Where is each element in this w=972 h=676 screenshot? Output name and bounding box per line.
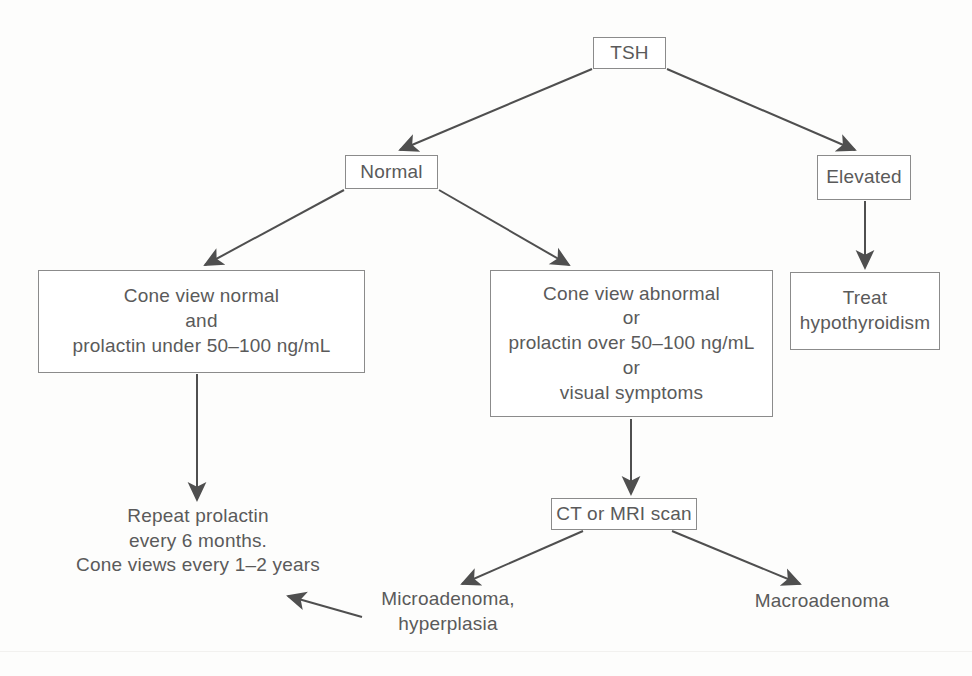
node-microadenoma-line-1: Microadenoma, <box>352 587 544 612</box>
node-cone-view-abnormal-line-3: prolactin over 50–100 ng/mL <box>491 331 772 356</box>
edge-microadenoma-to-repeat <box>288 596 362 617</box>
flowchart-canvas: TSH Normal Elevated Cone view normal and… <box>0 0 972 676</box>
node-tsh: TSH <box>593 37 666 69</box>
node-normal: Normal <box>345 155 438 189</box>
node-ct-or-mri-scan-label: CT or MRI scan <box>556 502 691 527</box>
node-macroadenoma: Macroadenoma <box>724 588 920 614</box>
node-normal-label: Normal <box>360 160 422 185</box>
node-cone-view-abnormal-line-2: or <box>491 306 772 331</box>
node-microadenoma-line-2: hyperplasia <box>352 612 544 637</box>
node-cone-view-normal-line-3: prolactin under 50–100 ng/mL <box>39 334 364 359</box>
node-repeat-prolactin-line-1: Repeat prolactin <box>58 504 338 529</box>
node-ct-or-mri-scan: CT or MRI scan <box>551 498 697 530</box>
node-tsh-label: TSH <box>610 41 649 66</box>
node-repeat-prolactin-line-3: Cone views every 1–2 years <box>58 553 338 578</box>
node-cone-view-abnormal-line-4: or <box>491 356 772 381</box>
edge-tsh-to-normal <box>400 69 592 150</box>
node-elevated-label: Elevated <box>826 165 902 190</box>
node-cone-view-normal-line-1: Cone view normal <box>39 284 364 309</box>
node-microadenoma: Microadenoma, hyperplasia <box>352 588 544 636</box>
node-cone-view-abnormal-line-1: Cone view abnormal <box>491 282 772 307</box>
node-cone-view-abnormal: Cone view abnormal or prolactin over 50–… <box>490 270 773 417</box>
node-elevated: Elevated <box>817 155 911 200</box>
node-treat-hypothyroidism-line-2: hypothyroidism <box>791 311 939 336</box>
faint-page-text <box>0 652 972 676</box>
node-repeat-prolactin: Repeat prolactin every 6 months. Cone vi… <box>58 505 338 577</box>
edge-normal-to-cone-abnormal <box>439 190 569 265</box>
edge-scan-to-microadenoma <box>462 531 583 584</box>
node-cone-view-normal: Cone view normal and prolactin under 50–… <box>38 270 365 373</box>
edge-normal-to-cone-normal <box>205 190 344 265</box>
node-repeat-prolactin-line-2: every 6 months. <box>58 529 338 554</box>
edge-scan-to-macroadenoma <box>672 531 800 584</box>
node-treat-hypothyroidism: Treat hypothyroidism <box>790 272 940 350</box>
node-treat-hypothyroidism-line-1: Treat <box>791 286 939 311</box>
node-cone-view-abnormal-line-5: visual symptoms <box>491 381 772 406</box>
node-cone-view-normal-line-2: and <box>39 309 364 334</box>
edge-tsh-to-elevated <box>667 69 855 150</box>
node-macroadenoma-label: Macroadenoma <box>755 589 889 614</box>
